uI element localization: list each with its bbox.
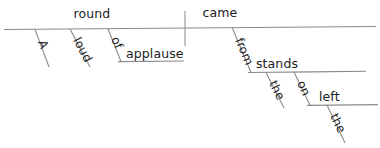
baseline-object-left	[307, 105, 378, 106]
word-preposition-from: from	[232, 36, 256, 68]
word-object-left: left	[319, 89, 340, 104]
word-article-a: A	[35, 38, 51, 51]
sentence-diagram-canvas: round came A loud of applause from stand…	[0, 0, 380, 148]
word-adjective-loud: loud	[70, 35, 95, 65]
main-baseline	[4, 27, 376, 30]
word-object-stands: stands	[256, 56, 298, 71]
word-verb-came: came	[203, 5, 238, 20]
word-subject-round: round	[74, 6, 111, 21]
baseline-object-stands-right	[312, 71, 366, 72]
word-article-the-stands: the	[266, 78, 287, 102]
word-preposition-on: on	[294, 79, 313, 99]
word-object-applause: applause	[126, 46, 184, 61]
baseline-object-stands-left	[248, 72, 312, 73]
word-article-the-left: the	[327, 111, 348, 135]
baseline-object-applause	[118, 61, 184, 62]
reed-kellogg-diagram: round came A loud of applause from stand…	[0, 0, 380, 148]
